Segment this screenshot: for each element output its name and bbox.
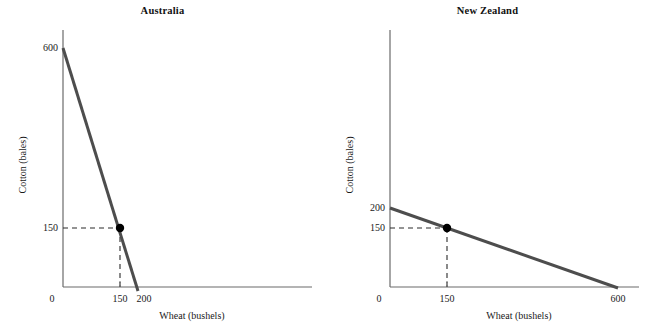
plot-area-new-zealand [325, 0, 650, 335]
ppf-line-australia [63, 48, 138, 291]
panel-australia: Australia 600 150 0 150 200 Wheat (bushe… [0, 0, 325, 335]
x-tick-label-0-new-zealand: 0 [377, 294, 382, 304]
y-tick-label-150-australia: 150 [32, 223, 58, 233]
y-tick-label-200-new-zealand: 200 [359, 203, 385, 213]
x-tick-label-0-australia: 0 [50, 294, 55, 304]
x-tick-label-150-new-zealand: 150 [440, 294, 455, 304]
production-point-marker-australia [116, 224, 124, 232]
y-axis-title-australia: Cotton (bales) [17, 137, 28, 194]
x-tick-label-200-australia: 200 [137, 294, 152, 304]
x-axis-title-new-zealand: Wheat (bushels) [486, 310, 551, 321]
x-tick-label-600-new-zealand: 600 [611, 294, 626, 304]
x-tick-label-150-australia: 150 [113, 294, 128, 304]
x-axis-title-australia: Wheat (bushels) [159, 310, 224, 321]
y-tick-label-600-australia: 600 [32, 43, 58, 53]
production-point-marker-new-zealand [443, 224, 451, 232]
ppf-line-new-zealand [390, 208, 618, 288]
ppf-figure: Australia 600 150 0 150 200 Wheat (bushe… [0, 0, 650, 335]
y-axis-title-new-zealand: Cotton (bales) [344, 137, 355, 194]
panel-new-zealand: New Zealand 200 150 0 150 600 Wheat (bus… [325, 0, 650, 335]
y-tick-label-150-new-zealand: 150 [359, 223, 385, 233]
